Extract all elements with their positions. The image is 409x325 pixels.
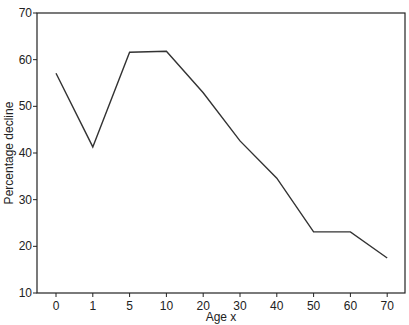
line-chart: 10203040506070 01510203040506070 Percent…	[0, 0, 409, 325]
y-axis-label: Percentage decline	[2, 101, 16, 204]
plot-frame	[37, 13, 405, 293]
x-tick-label: 50	[307, 299, 321, 313]
y-tick-label: 10	[19, 286, 33, 300]
x-axis-label: Age x	[206, 310, 237, 324]
y-tick-label: 70	[19, 6, 33, 20]
x-tick-label: 40	[270, 299, 284, 313]
x-tick-label: 0	[53, 299, 60, 313]
y-tick-label: 60	[19, 53, 33, 67]
y-tick-label: 40	[19, 146, 33, 160]
data-line	[56, 51, 387, 258]
y-tick-label: 50	[19, 99, 33, 113]
x-tick-label: 10	[160, 299, 174, 313]
x-tick-label: 5	[126, 299, 133, 313]
x-tick-label: 1	[89, 299, 96, 313]
x-tick-label: 60	[344, 299, 358, 313]
y-axis-ticks: 10203040506070	[19, 6, 37, 300]
y-tick-label: 20	[19, 239, 33, 253]
x-tick-label: 70	[381, 299, 395, 313]
y-tick-label: 30	[19, 193, 33, 207]
